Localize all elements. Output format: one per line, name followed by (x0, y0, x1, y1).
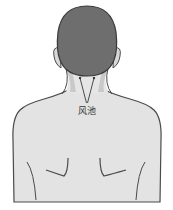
neck-outline-left (62, 68, 67, 94)
acupoint-marker-left (79, 77, 81, 79)
back-view-illustration (0, 0, 173, 210)
head-hair (57, 6, 116, 76)
neck-outline-right (107, 68, 112, 94)
acupoint-marker-right (93, 77, 95, 79)
acupoint-label-fengchi: 风池 (75, 106, 99, 117)
